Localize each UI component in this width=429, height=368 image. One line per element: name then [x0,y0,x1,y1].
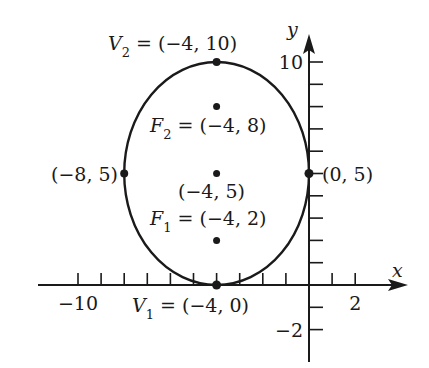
point-f2-dot [213,103,220,110]
point-l-label: (−8, 5) [51,163,118,185]
x-tick-label: 2 [349,292,361,314]
point-f1-label: F1 = (−4, 2) [149,207,266,235]
point-subscript: 2 [163,127,171,142]
point-r-label: (0, 5) [322,163,373,185]
point-f1-dot [213,237,220,244]
point-coords: = (−4, 8) [171,114,266,136]
x-tick-label: −10 [58,292,98,314]
point-v1-label: V1 = (−4, 0) [132,294,249,322]
point-l-dot [120,170,128,178]
point-v1-dot [212,281,221,290]
point-v2-dot [213,58,221,66]
point-f2-label: F2 = (−4, 8) [149,114,266,142]
point-coords: = (−4, 2) [171,207,266,229]
point-subscript: 1 [163,220,171,235]
point-c-label: (−4, 5) [178,180,245,202]
y-axis-label: y [286,18,298,40]
point-name: F [149,114,164,136]
x-axis-label: x [392,259,403,281]
point-c-dot [213,170,220,177]
y-tick-label: −2 [275,319,303,341]
point-subscript: 1 [146,307,154,322]
point-coords: = (−4, 10) [130,32,237,54]
point-v2-label: V2 = (−4, 10) [108,32,237,60]
point-subscript: 2 [122,45,130,60]
point-r-dot [305,169,314,178]
y-tick-label: 10 [279,51,303,73]
point-coords: = (−4, 0) [154,294,249,316]
ellipse-diagram: xy−10210−2 V2 = (−4, 10)F2 = (−4, 8)(−4,… [0,0,429,368]
point-name: F [149,207,164,229]
labeled-points: V2 = (−4, 10)F2 = (−4, 8)(−4, 5)F1 = (−4… [51,32,373,322]
